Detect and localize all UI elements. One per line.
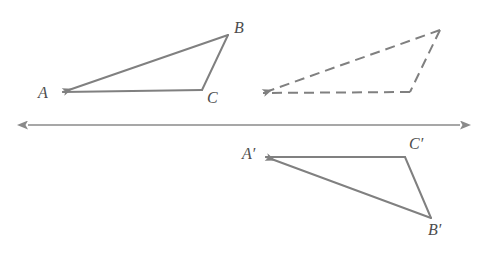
- vertex-label-b-prime: B′: [428, 222, 441, 238]
- segment-A-prime-B-prime: [266, 157, 431, 218]
- segment-AB: [63, 35, 228, 92]
- vertex-label-c-prime: C′: [409, 136, 423, 152]
- triangle-dashed-translated: [263, 30, 440, 93]
- vertex-label-a-prime: A′: [242, 146, 255, 162]
- triangle-ABC: [63, 35, 228, 92]
- vertex-label-c: C: [207, 90, 218, 106]
- dashed-segment-bottom: [263, 92, 410, 93]
- segment-CA: [63, 90, 202, 92]
- geometry-figure: A B C A′ B′ C′: [0, 0, 481, 253]
- dashed-segment-apex-to-bottom-right: [410, 30, 440, 92]
- vertex-label-b: B: [234, 20, 244, 36]
- figure-canvas: [0, 0, 481, 253]
- triangle-A-prime-B-prime-C-prime: [266, 157, 431, 218]
- dashed-segment-left-to-apex: [263, 30, 440, 93]
- vertex-label-a: A: [38, 85, 48, 101]
